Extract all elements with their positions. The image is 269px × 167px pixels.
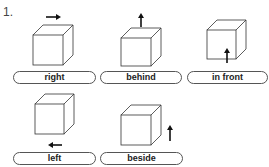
cube-beside [121, 105, 161, 145]
up-arrow-icon [138, 13, 144, 27]
label-pill-left: left [13, 152, 96, 165]
up-arrow-icon [167, 125, 173, 141]
cube-behind [121, 28, 161, 66]
up-arrow-icon [224, 48, 230, 63]
cube-right [33, 25, 73, 65]
cube-left [35, 94, 74, 134]
label-pill-beside: beside [100, 152, 183, 165]
right-arrow-icon [46, 14, 61, 20]
label-pill-behind: behind [100, 71, 182, 84]
label-pill-in-front: in front [187, 71, 268, 84]
left-arrow-icon [48, 142, 62, 148]
label-pill-right: right [13, 71, 96, 84]
